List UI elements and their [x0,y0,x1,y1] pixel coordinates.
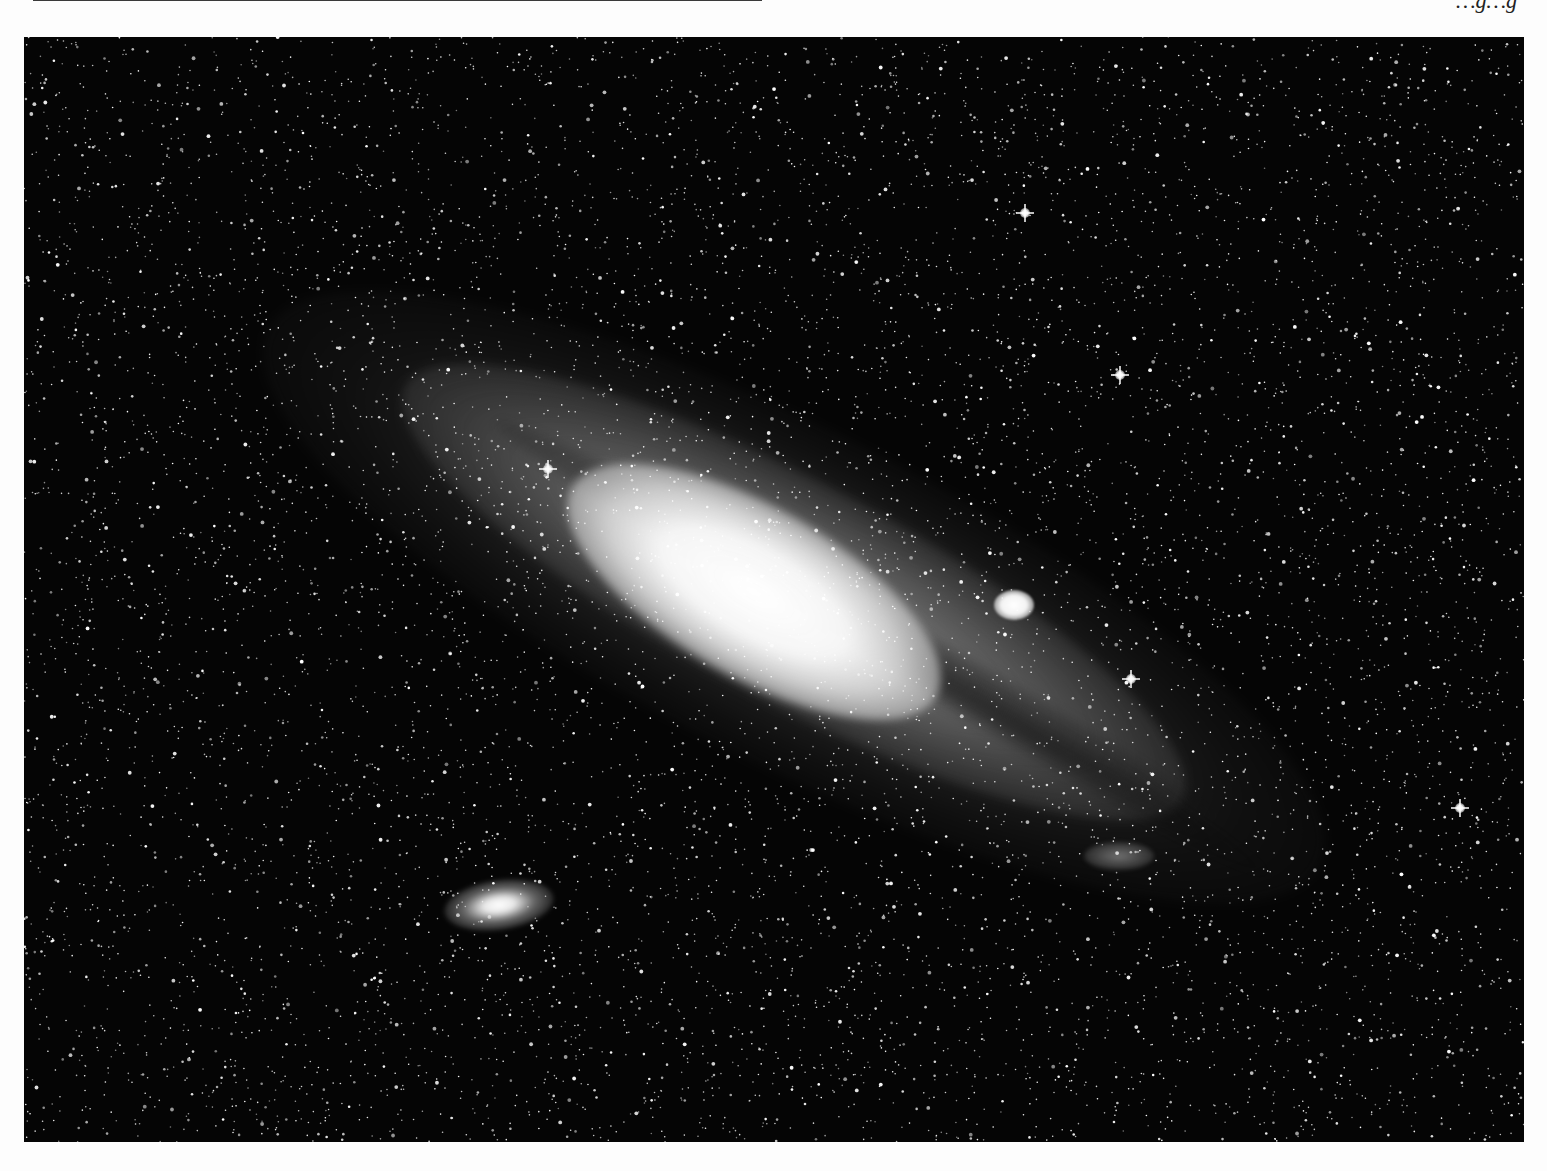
galaxy-inner-disk [354,288,1234,895]
cropped-caption-box [33,0,762,1]
running-head-partial: …g…g [1456,0,1517,14]
bright-star [543,464,553,474]
galaxy-outer-disk [193,182,1394,1012]
galaxy-dust-lane-outer [810,599,1278,890]
bright-star [1126,674,1136,684]
satellite-galaxy-elliptical [441,873,557,938]
galaxy-core [530,413,979,770]
bright-star [1020,208,1030,218]
satellite-galaxy-compact [994,590,1034,620]
galaxy-dust-lane [484,401,1224,841]
bright-star [1115,370,1125,380]
starfield [24,37,1524,1142]
bright-star [1455,803,1465,813]
star-forming-region [1084,842,1154,870]
galaxy-photograph [24,37,1524,1142]
